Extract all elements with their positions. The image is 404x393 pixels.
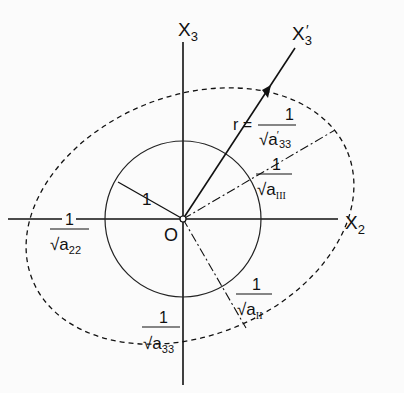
origin-point (180, 216, 186, 222)
r-fraction-label: r = 1 √a′33 (233, 106, 296, 150)
a-II-fraction-label: 1 √aII (236, 276, 272, 321)
a22-fraction-label: 1 √a22 (50, 208, 89, 256)
numerator: 1 (159, 309, 168, 326)
ellipsoid-diagram: X3 X3′ X2 O 1 r = 1 √a′33 1 √aIII 1 √a22… (0, 0, 404, 393)
sqrt-denominator: √aII (237, 300, 262, 321)
diagram-canvas: X3 X3′ X2 O 1 r = 1 √a′33 1 √aIII 1 √a22… (0, 0, 404, 393)
sqrt-denominator: √a33 (143, 334, 174, 355)
r-prefix: r = (233, 116, 252, 133)
x2-label: X2 (345, 212, 365, 237)
numerator: 1 (252, 276, 261, 293)
sqrt-denominator: √a22 (50, 235, 81, 256)
unit-radius-label: 1 (142, 190, 151, 209)
a-III-fraction-label: 1 √aIII (256, 156, 292, 201)
numerator: 1 (272, 156, 281, 173)
numerator: 1 (65, 211, 74, 228)
sqrt-denominator: √a′33 (259, 129, 291, 150)
origin-label: O (164, 225, 178, 245)
ellipse-dashed (0, 41, 393, 391)
sqrt-denominator: √aIII (257, 180, 286, 201)
x3-label: X3 (178, 19, 198, 44)
numerator: 1 (285, 106, 294, 123)
x3prime-label: X3′ (292, 22, 312, 48)
a33-fraction-label: 1 √a33 (142, 309, 180, 355)
